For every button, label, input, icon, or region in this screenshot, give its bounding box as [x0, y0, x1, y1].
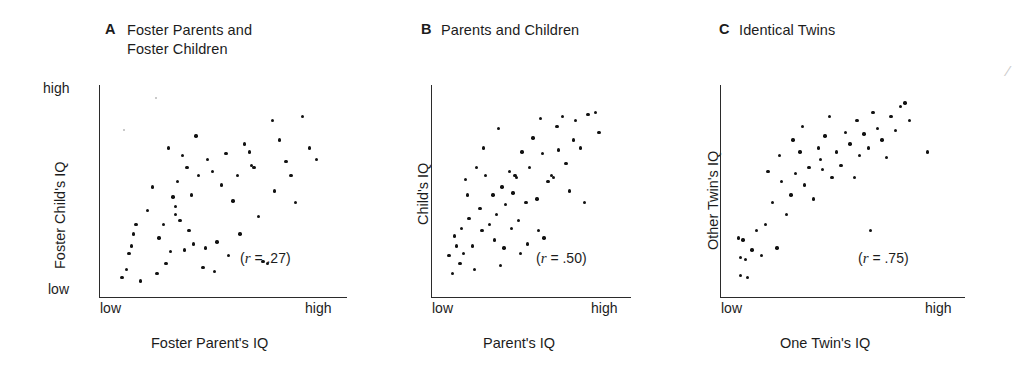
scatter-point	[517, 219, 520, 222]
scatter-point	[755, 229, 758, 232]
scatter-point	[739, 256, 742, 259]
scatter-point	[557, 148, 560, 151]
scatter-point	[764, 223, 767, 226]
scatter-point	[220, 183, 223, 186]
scatter-point	[460, 227, 463, 230]
panel-c-x-low-label: low	[721, 300, 742, 316]
scatter-point	[157, 236, 160, 239]
panel-b-plot-area	[431, 85, 631, 298]
scatter-point	[181, 154, 184, 157]
scatter-point	[876, 127, 879, 130]
panel-a-y-axis-title: Foster Child's IQ	[52, 161, 68, 269]
panel-c-correlation-annotation: (r = .75)	[858, 250, 909, 267]
scatter-point	[812, 197, 815, 200]
scatter-point	[174, 205, 177, 208]
scatter-point	[524, 201, 527, 204]
scatter-point	[174, 213, 177, 216]
scatter-point	[908, 119, 911, 122]
scatter-point	[278, 138, 281, 141]
scatter-point	[508, 170, 511, 173]
scatter-point	[308, 146, 311, 149]
panel-c-x-axis-title: One Twin's IQ	[780, 335, 870, 351]
scatter-point	[555, 125, 558, 128]
panel-c-letter: C	[719, 21, 729, 37]
scatter-point	[535, 197, 538, 200]
scatter-point	[889, 115, 892, 118]
scatter-point	[821, 168, 824, 171]
scatter-point	[828, 115, 831, 118]
panel-a-x-high-label: high	[305, 300, 331, 316]
scatter-point	[473, 268, 476, 271]
scatter-point	[155, 272, 158, 275]
scatter-point	[594, 111, 597, 114]
scatter-point	[284, 160, 287, 163]
scatter-point	[190, 193, 193, 196]
scatter-point	[236, 174, 239, 177]
panel-a-x-low-label: low	[100, 300, 121, 316]
panel-b-correlation-annotation: (r = .50)	[536, 250, 587, 267]
scatter-point	[835, 150, 838, 153]
scatter-point	[746, 276, 749, 279]
scatter-point	[289, 174, 292, 177]
panel-a-foster-parents-children: A Foster Parents and Foster Children Fos…	[0, 0, 400, 382]
scatter-point	[541, 152, 544, 155]
scatter-point	[146, 209, 149, 212]
scatter-point	[511, 191, 514, 194]
panel-c-x-high-label: high	[925, 300, 951, 316]
scatter-point	[798, 150, 801, 153]
scatter-point	[885, 156, 888, 159]
scatter-point	[778, 154, 781, 157]
scatter-point	[192, 242, 195, 245]
scatter-point	[215, 240, 218, 243]
page-speck	[123, 129, 125, 131]
scatter-point	[766, 170, 769, 173]
scatter-point	[520, 150, 523, 153]
panel-a-correlation-annotation: (r = .27)	[240, 250, 291, 267]
scatter-point	[213, 270, 216, 273]
scatter-point	[858, 154, 861, 157]
scatter-point	[510, 227, 513, 230]
scatter-point	[194, 134, 197, 137]
scatter-point	[867, 146, 870, 149]
scatter-point	[741, 238, 744, 241]
scatter-point	[750, 248, 753, 251]
scatter-point	[273, 189, 276, 192]
panel-b-title: Parents and Children	[441, 21, 579, 40]
scatter-point	[227, 254, 230, 257]
scatter-point	[167, 146, 170, 149]
scatter-point	[502, 246, 505, 249]
scatter-point	[211, 170, 214, 173]
scatter-point	[526, 242, 529, 245]
scatter-point	[231, 199, 234, 202]
panel-b-x-high-label: high	[591, 300, 617, 316]
panel-c-r-value: .75	[884, 250, 903, 266]
scatter-point	[451, 272, 454, 275]
scatter-point	[455, 244, 458, 247]
scatter-point	[855, 119, 858, 122]
scatter-point	[183, 248, 186, 251]
scatter-point	[185, 166, 188, 169]
panel-a-y-low-label: low	[48, 281, 69, 297]
scatter-point	[447, 254, 450, 257]
scatter-point	[453, 234, 456, 237]
scatter-point	[139, 279, 142, 282]
scatter-point	[204, 246, 207, 249]
scatter-point	[248, 150, 251, 153]
scatter-point	[785, 213, 788, 216]
scatter-point	[819, 158, 822, 161]
scatter-point	[458, 262, 461, 265]
scatter-point	[162, 223, 165, 226]
scatter-point	[739, 274, 742, 277]
scatter-point	[301, 115, 304, 118]
scatter-point	[579, 146, 582, 149]
scatter-point	[127, 252, 130, 255]
panel-a-y-high-label: high	[43, 80, 69, 96]
scatter-point	[737, 236, 740, 239]
scatter-point	[572, 138, 575, 141]
scatterplot-figure: A Foster Parents and Foster Children Fos…	[0, 0, 1025, 382]
panel-c-title: Identical Twins	[739, 21, 835, 40]
scatter-point	[164, 262, 167, 265]
scatter-point	[568, 189, 571, 192]
scatter-point	[169, 250, 172, 253]
scatter-point	[771, 201, 774, 204]
